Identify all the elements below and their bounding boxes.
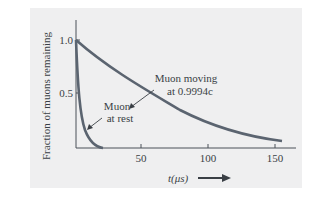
x-tick-label: 100 [200, 152, 217, 164]
x-tick-label: 50 [136, 152, 148, 164]
x-tick-label: 150 [267, 152, 284, 164]
annotation-moving-line2: at 0.9994c [167, 85, 213, 97]
annotation-moving-line1: Muon moving [155, 72, 218, 84]
annotation-rest-line1: Muon [104, 100, 131, 112]
curve-rest [76, 40, 103, 148]
annotation-rest-line2: at rest [107, 112, 134, 124]
y-tick-label: 0.5 [59, 87, 73, 99]
arrow-right-icon [222, 174, 231, 182]
x-axis-label: t(μs) [168, 172, 189, 185]
y-axis-label: Fraction of muons remaining [40, 32, 52, 161]
annotation-moving-pointer [131, 90, 154, 107]
y-tick-label: 1.0 [59, 34, 73, 46]
decay-chart: 1.0 0.5 50 100 150 Fraction of muons rem… [0, 0, 332, 197]
pointer-arrowhead-icon [87, 124, 93, 130]
